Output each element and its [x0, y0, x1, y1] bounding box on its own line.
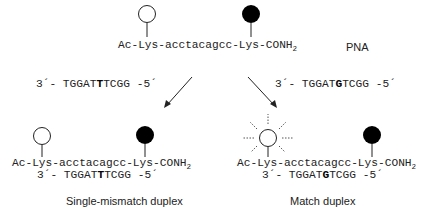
mismatch-dna-sequence: 3´- TGGATTTCGG -5´	[37, 169, 158, 181]
mismatch-target-sequence: 3´- TGGATTTCGG -5´	[36, 78, 157, 90]
arrow-to-match-icon	[248, 77, 277, 108]
filled-circle-icon	[363, 126, 381, 144]
filled-circle-icon	[136, 126, 154, 144]
mismatch-duplex: Ac-Lys-acctacagcc-Lys-CONH2 3´- TGGATTTC…	[12, 126, 191, 207]
pna-label: PNA	[346, 41, 369, 53]
match-duplex: Ac-Lys-acctacagcc-Lys-CONH2 3´- TGGATGTC…	[237, 114, 416, 207]
open-circle-icon	[139, 6, 156, 23]
top-pna-probe: Ac-Lys-acctacagcc-Lys-CONH2 PNA	[118, 5, 369, 53]
match-target-sequence: 3´- TGGATGTCGG -5´	[275, 78, 396, 90]
match-caption: Match duplex	[290, 195, 356, 207]
top-pna-sequence: Ac-Lys-acctacagcc-Lys-CONH2	[118, 39, 297, 53]
open-circle-icon	[34, 128, 51, 145]
filled-circle-icon	[242, 5, 260, 23]
arrow-to-mismatch-icon	[164, 77, 192, 108]
match-dna-sequence: 3´- TGGATGTCGG -5´	[262, 169, 383, 181]
pna-probe-diagram: Ac-Lys-acctacagcc-Lys-CONH2 PNA 3´- TGGA…	[0, 0, 422, 218]
glowing-open-circle-icon	[260, 130, 277, 147]
mismatch-caption: Single-mismatch duplex	[66, 195, 183, 207]
